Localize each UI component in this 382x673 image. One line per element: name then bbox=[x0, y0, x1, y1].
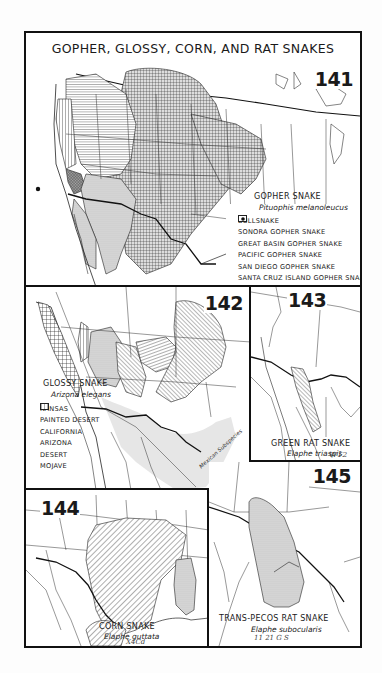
legend-item-san-diego: SAN DIEGO GOPHER SNAKE bbox=[238, 261, 360, 273]
legend-item-great-basin: GREAT BASIN GOPHER SNAKE bbox=[238, 238, 360, 250]
legend-item-bullsnake: BULLSNAKE bbox=[238, 215, 360, 227]
legend-item-california: CALIFORNIA bbox=[40, 426, 100, 438]
map-141-legend: BULLSNAKE SONORA GOPHER SNAKE GREAT BASI… bbox=[238, 215, 360, 284]
map-143-handwritten-mark: W12 bbox=[329, 450, 347, 459]
map-144-handwritten-mark: X4Cd bbox=[126, 638, 145, 646]
legend-item-desert: DESERT bbox=[40, 449, 100, 461]
legend-item-sonora: SONORA GOPHER SNAKE bbox=[238, 227, 360, 239]
page-title-bar: GOPHER, GLOSSY, CORN, AND RAT SNAKES bbox=[26, 33, 360, 66]
map-145-handwritten-mark: 11 21 G S bbox=[254, 634, 289, 642]
legend-item-mojave: MOJAVE bbox=[40, 461, 100, 473]
map-142-species-scientific: Arizona elegans bbox=[51, 390, 111, 399]
map-145-panel: 145 TRANS-PECOS RAT SNAKE Elaphe subocul… bbox=[209, 462, 360, 646]
map-143-number: 143 bbox=[287, 290, 327, 310]
map-144-number: 144 bbox=[40, 498, 80, 518]
map-144-species-common: CORN SNAKE bbox=[99, 622, 155, 631]
map-144-panel: 144 CORN SNAKE Elaphe guttata X4Cd bbox=[26, 490, 209, 646]
map-142-species-common: GLOSSY SNAKE bbox=[43, 379, 108, 388]
map-141-species-common: GOPHER SNAKE bbox=[254, 192, 321, 201]
map-145-species-common: TRANS-PECOS RAT SNAKE bbox=[219, 614, 329, 623]
map-142-panel: 142 GLOSSY SNAKE Arizona elegans KANSAS … bbox=[26, 287, 251, 490]
page-title: GOPHER, GLOSSY, CORN, AND RAT SNAKES bbox=[52, 41, 335, 56]
map-141-number: 141 bbox=[314, 69, 354, 89]
legend-item-painted-desert: PAINTED DESERT bbox=[40, 415, 100, 427]
pattern-swatch-vertical bbox=[40, 403, 49, 410]
pattern-swatch-dot bbox=[238, 215, 247, 222]
map-145-species-scientific: Elaphe subocularis bbox=[251, 625, 322, 634]
legend-item-santa-cruz: SANTA CRUZ ISLAND GOPHER SNAKE bbox=[238, 273, 360, 285]
map-143-drawing bbox=[251, 287, 360, 462]
map-145-number: 145 bbox=[312, 466, 352, 486]
page-frame: GOPHER, GLOSSY, CORN, AND RAT SNAKES bbox=[24, 31, 362, 648]
map-141-species-scientific: Pituophis melanoleucus bbox=[259, 203, 348, 212]
map-143-species-common: GREEN RAT SNAKE bbox=[271, 439, 350, 448]
map-142-legend: KANSAS PAINTED DESERT CALIFORNIA ARIZONA… bbox=[40, 403, 100, 472]
map-141-panel: 141 GOPHER SNAKE Pituophis melanoleucus … bbox=[26, 64, 360, 287]
map-142-number: 142 bbox=[204, 293, 244, 313]
legend-item-pacific: PACIFIC GOPHER SNAKE bbox=[238, 250, 360, 262]
legend-item-arizona: ARIZONA bbox=[40, 438, 100, 450]
map-143-panel: 143 GREEN RAT SNAKE Elaphe triaspis W12 bbox=[251, 287, 360, 462]
